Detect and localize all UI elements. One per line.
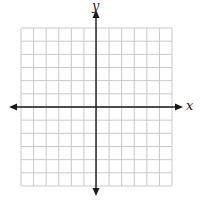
x-axis-left-arrow-icon [9, 104, 17, 111]
y-axis-down-arrow-icon [93, 188, 100, 196]
y-axis-label: y [92, 0, 99, 12]
coordinate-plane [0, 0, 206, 201]
axes [9, 10, 183, 196]
x-axis-right-arrow-icon [175, 104, 183, 111]
x-axis-label: x [186, 99, 193, 112]
